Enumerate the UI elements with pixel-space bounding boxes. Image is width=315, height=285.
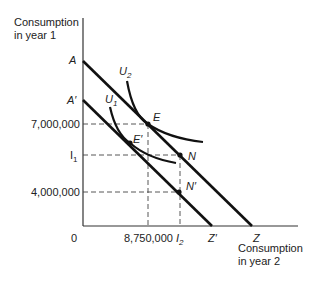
x-tick-8750000: 8,750,000 — [124, 232, 173, 244]
point-Nprime — [176, 189, 181, 194]
y-tick-4000000: 4,000,000 — [31, 186, 80, 198]
y-tick-I1: I1 — [70, 149, 78, 164]
y-axis-label-line1: Consumption — [14, 16, 79, 28]
label-Eprime: E′ — [133, 133, 143, 145]
budget-line-AprimeZprime — [83, 100, 212, 226]
budget-line-AZ — [83, 61, 252, 226]
point-E — [145, 121, 150, 126]
origin-label: 0 — [71, 232, 77, 244]
dashed-guides — [83, 124, 180, 226]
point-Eprime — [127, 140, 132, 145]
x-tick-I2: I2 — [176, 232, 184, 247]
label-U1: U1 — [105, 93, 117, 108]
label-A: A — [68, 54, 76, 66]
label-N: N — [188, 150, 196, 162]
label-Zprime: Z′ — [207, 232, 218, 244]
x-axis-label-line2: in year 2 — [238, 255, 280, 267]
label-Aprime: A′ — [66, 94, 77, 106]
y-tick-7000000: 7,000,000 — [31, 118, 80, 130]
point-N — [177, 152, 182, 157]
label-Nprime: N′ — [186, 180, 197, 192]
label-U2: U2 — [119, 65, 132, 80]
intertemporal-consumption-diagram: Consumption in year 1 Consumption in yea… — [0, 0, 315, 285]
y-axis-label-line2: in year 1 — [14, 29, 56, 41]
label-Z: Z — [252, 232, 261, 244]
label-E: E — [153, 111, 161, 123]
x-axis-label-line1: Consumption — [238, 242, 303, 254]
